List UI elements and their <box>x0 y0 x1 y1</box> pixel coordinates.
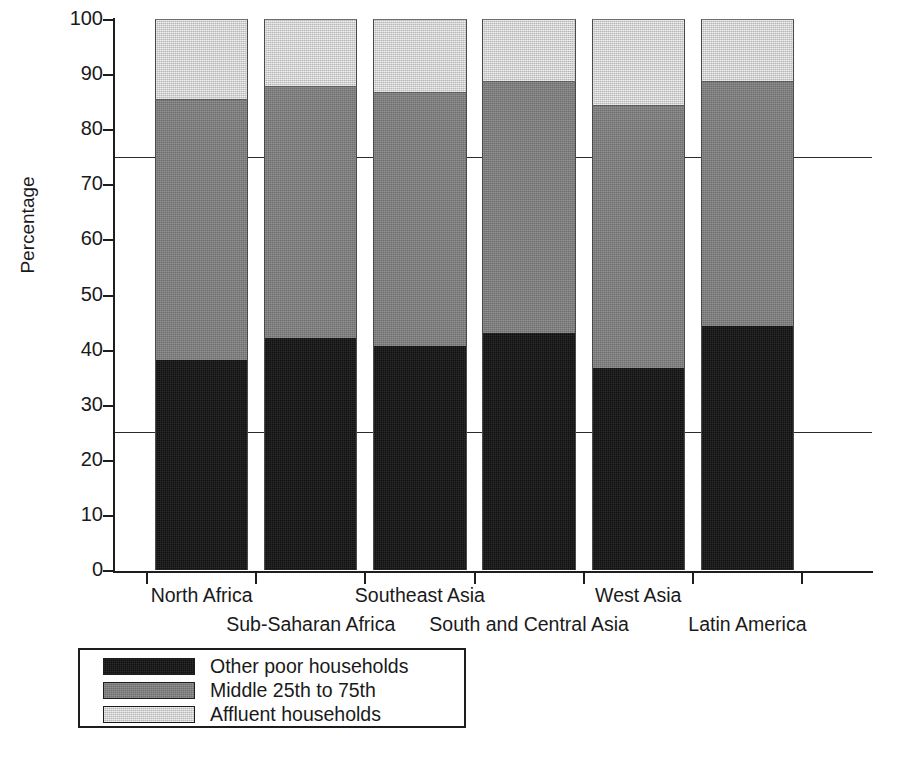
bar-segment-other-poor-households <box>592 368 685 570</box>
plot-area: 0102030405060708090100 <box>113 18 872 572</box>
bar-segment-affluent-households <box>592 19 685 105</box>
bar-segment-other-poor-households <box>701 326 794 570</box>
x-tick-6 <box>801 573 803 584</box>
x-category-label-west-asia: West Asia <box>488 584 788 606</box>
y-tick-40 <box>103 350 113 352</box>
bar-segment-middle-25th-to-75th <box>264 86 357 338</box>
y-tick-label-30: 30 <box>13 394 103 414</box>
y-tick-label-0: 0 <box>13 559 103 579</box>
y-tick-60 <box>103 239 113 241</box>
x-tick-3 <box>474 573 476 584</box>
bar-segment-affluent-households <box>482 19 575 81</box>
y-tick-label-80: 80 <box>13 118 103 138</box>
bar-segment-middle-25th-to-75th <box>373 92 466 347</box>
cut-off-caption <box>0 752 901 762</box>
y-tick-50 <box>103 295 113 297</box>
bar-segment-other-poor-households <box>482 333 575 570</box>
bar-south-and-central-asia <box>482 19 575 570</box>
x-tick-2 <box>364 573 366 584</box>
y-tick-100 <box>103 19 113 21</box>
y-tick-label-10: 10 <box>13 504 103 524</box>
bar-segment-other-poor-households <box>264 338 357 570</box>
bar-sub-saharan-africa <box>264 19 357 570</box>
bar-segment-middle-25th-to-75th <box>701 81 794 326</box>
y-tick-70 <box>103 184 113 186</box>
bar-southeast-asia <box>373 19 466 570</box>
x-tick-4 <box>583 573 585 584</box>
legend-swatch-mid <box>103 682 195 699</box>
bar-segment-affluent-households <box>373 19 466 92</box>
x-tick-0 <box>146 573 148 584</box>
y-tick-label-100: 100 <box>13 8 103 28</box>
y-tick-90 <box>103 74 113 76</box>
bar-north-africa <box>155 19 248 570</box>
bar-segment-other-poor-households <box>155 360 248 570</box>
y-tick-label-70: 70 <box>13 173 103 193</box>
legend-label: Middle 25th to 75th <box>210 680 376 701</box>
y-tick-0 <box>103 570 113 572</box>
bar-west-asia <box>592 19 685 570</box>
bar-segment-other-poor-households <box>373 346 466 570</box>
y-tick-label-60: 60 <box>13 228 103 248</box>
y-tick-80 <box>103 129 113 131</box>
x-category-label-latin-america: Latin America <box>597 613 897 635</box>
legend-item-middle-25th-to-75th: Middle 25th to 75th <box>80 679 464 702</box>
bar-latin-america <box>701 19 794 570</box>
legend-item-other-poor-households: Other poor households <box>80 655 464 678</box>
chart-figure: Percentage 0102030405060708090100 North … <box>0 0 901 762</box>
y-tick-label-90: 90 <box>13 63 103 83</box>
bar-segment-affluent-households <box>264 19 357 86</box>
legend-label: Affluent households <box>210 704 381 725</box>
legend-item-affluent-households: Affluent households <box>80 703 464 726</box>
bar-segment-middle-25th-to-75th <box>592 105 685 368</box>
x-tick-5 <box>692 573 694 584</box>
bar-segment-affluent-households <box>701 19 794 81</box>
bar-segment-middle-25th-to-75th <box>482 81 575 333</box>
y-tick-30 <box>103 405 113 407</box>
legend-swatch-light <box>103 706 195 723</box>
y-tick-label-40: 40 <box>13 339 103 359</box>
bar-segment-middle-25th-to-75th <box>155 99 248 360</box>
x-axis-line <box>113 571 873 573</box>
x-tick-1 <box>255 573 257 584</box>
legend-label: Other poor households <box>210 656 408 677</box>
y-tick-10 <box>103 515 113 517</box>
y-axis-line <box>113 18 115 573</box>
y-tick-label-50: 50 <box>13 284 103 304</box>
y-tick-20 <box>103 460 113 462</box>
y-axis-title: Percentage <box>17 145 39 305</box>
y-tick-label-20: 20 <box>13 449 103 469</box>
legend-swatch-dark <box>103 658 195 675</box>
bar-segment-affluent-households <box>155 19 248 99</box>
chart-legend: Other poor householdsMiddle 25th to 75th… <box>78 648 466 728</box>
